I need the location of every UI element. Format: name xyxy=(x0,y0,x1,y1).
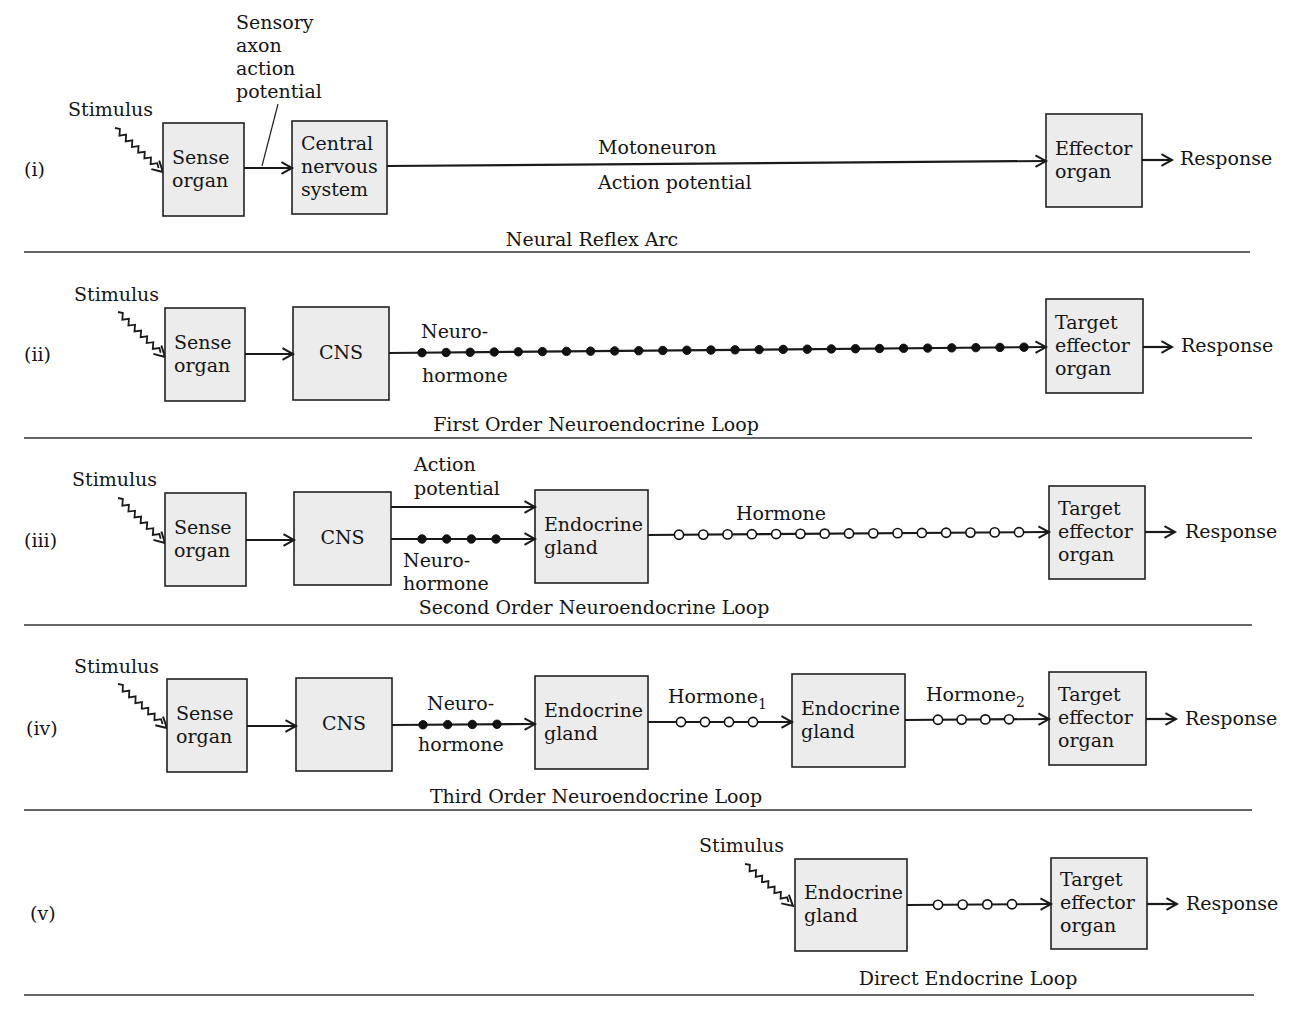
filled-dot-icon xyxy=(419,721,427,729)
label-text: potential xyxy=(236,80,322,102)
subscript: 1 xyxy=(758,696,767,712)
arrow-connector xyxy=(245,348,293,360)
label-text: Neuro- xyxy=(421,320,488,342)
effector-organ-box: Effectororgan xyxy=(1046,114,1142,207)
filled-dot-icon xyxy=(635,347,643,355)
filled-dot-icon xyxy=(493,720,501,728)
open-circle-icon xyxy=(820,529,829,538)
label-text: action xyxy=(236,57,295,79)
box-label: Target xyxy=(1060,868,1123,890)
stimulus-label: Stimulus xyxy=(74,655,159,677)
box-label: CNS xyxy=(322,712,366,734)
box-label: organ xyxy=(174,539,230,561)
box-label: organ xyxy=(1058,729,1114,751)
arrow-connector xyxy=(391,501,535,513)
filled-dot-icon xyxy=(490,348,498,356)
motoneuron-label: Motoneuron xyxy=(598,136,716,158)
hormone-circle-arrow xyxy=(648,526,1049,539)
hormone-circle-arrow xyxy=(907,898,1051,910)
target-effector-organ-box: Targeteffectororgan xyxy=(1046,299,1143,393)
response-label: Response xyxy=(1185,520,1277,542)
hormone-label: hormone xyxy=(422,364,508,386)
filled-dot-icon xyxy=(923,344,931,352)
filled-dot-icon xyxy=(514,348,522,356)
neurohormone-dotted-arrow xyxy=(391,533,535,545)
open-circle-icon xyxy=(748,717,757,726)
panel-caption: Second Order Neuroendocrine Loop xyxy=(419,596,770,618)
filled-dot-icon xyxy=(442,535,450,543)
label-text: Hormone xyxy=(736,502,826,524)
label-text: Response xyxy=(1180,147,1272,169)
cns-box: CNS xyxy=(293,307,389,400)
filled-dot-icon xyxy=(586,347,594,355)
filled-dot-icon xyxy=(683,346,691,354)
open-circle-icon xyxy=(981,715,990,724)
box-label: Sense xyxy=(174,331,232,353)
response-label: Response xyxy=(1186,892,1278,914)
arrow-connector xyxy=(1142,154,1172,166)
box-label: Endocrine xyxy=(544,513,643,535)
neuroendocrine-loops-diagram: (i)StimulusSenseorganCentralnervoussyste… xyxy=(0,0,1304,1019)
open-circle-icon xyxy=(983,900,992,909)
sense-organ-box: Senseorgan xyxy=(163,123,244,216)
open-circle-icon xyxy=(990,528,999,537)
panel-ii: (ii)StimulusSenseorganCNSTargeteffectoro… xyxy=(24,283,1273,438)
endocrine-gland-2-box: Endocrinegland xyxy=(792,674,905,767)
stimulus-label: Stimulus xyxy=(72,468,157,490)
box-label: Effector xyxy=(1055,137,1133,159)
sense-organ-box: Senseorgan xyxy=(165,493,246,586)
box-label: Sense xyxy=(172,146,230,168)
label-text: Response xyxy=(1186,892,1278,914)
arrow-connector xyxy=(246,534,294,546)
label-text: Neuro- xyxy=(403,549,470,571)
box-label: organ xyxy=(1060,914,1116,936)
panel-numeral: (iii) xyxy=(24,529,57,551)
label-text: hormone xyxy=(418,733,504,755)
label-text: Action potential xyxy=(597,171,752,193)
filled-dot-icon xyxy=(492,535,500,543)
action-potential-label: Actionpotential xyxy=(413,453,500,499)
box-label: organ xyxy=(174,354,230,376)
filled-dot-icon xyxy=(803,345,811,353)
open-circle-icon xyxy=(893,529,902,538)
box-label: Endocrine xyxy=(544,699,643,721)
filled-dot-icon xyxy=(827,345,835,353)
open-circle-icon xyxy=(942,528,951,537)
label-text: Response xyxy=(1185,520,1277,542)
label-text: Hormone2 xyxy=(926,683,1025,710)
panel-i: (i)StimulusSenseorganCentralnervoussyste… xyxy=(24,11,1272,252)
box-label: CNS xyxy=(320,526,364,548)
open-circle-icon xyxy=(933,715,942,724)
box-label: effector xyxy=(1058,520,1134,542)
filled-dot-icon xyxy=(948,344,956,352)
neurohormone-label: Neuro-hormone xyxy=(403,549,489,594)
arrow-connector xyxy=(387,155,1046,167)
stimulus-wavy-arrow-icon xyxy=(118,684,167,728)
endocrine-gland-1-box: Endocrinegland xyxy=(535,676,648,769)
filled-dot-icon xyxy=(418,348,426,356)
central-nervous-system-box: Centralnervoussystem xyxy=(292,121,387,214)
panel-caption: Neural Reflex Arc xyxy=(506,228,678,250)
filled-dot-icon xyxy=(755,345,763,353)
hormone-label: Hormone xyxy=(736,502,826,524)
hormone-label: hormone xyxy=(418,733,504,755)
neurohormone-dotted-arrow xyxy=(389,341,1046,357)
box-label: Sense xyxy=(174,516,232,538)
filled-dot-icon xyxy=(468,720,476,728)
open-circle-icon xyxy=(869,529,878,538)
panel-caption: First Order Neuroendocrine Loop xyxy=(433,413,759,435)
filled-dot-icon xyxy=(538,347,546,355)
box-label: system xyxy=(301,178,368,200)
box-label: gland xyxy=(804,904,858,926)
panel-numeral: (iv) xyxy=(26,717,58,739)
panel-iii: (iii)StimulusSenseorganCNSEndocrinegland… xyxy=(24,453,1277,625)
endocrine-gland-box: Endocrinegland xyxy=(795,859,907,951)
arrow-connector xyxy=(244,162,292,174)
stimulus-wavy-arrow-icon xyxy=(115,128,163,172)
arrow-connector xyxy=(1143,341,1172,353)
response-label: Response xyxy=(1185,707,1277,729)
box-label: gland xyxy=(801,720,855,742)
open-circle-icon xyxy=(957,715,966,724)
arrow-connector xyxy=(1145,526,1175,538)
target-effector-organ-box: Targeteffectororgan xyxy=(1051,858,1147,949)
